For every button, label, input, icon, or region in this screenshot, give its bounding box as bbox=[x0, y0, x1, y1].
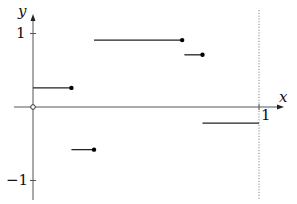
segments bbox=[33, 38, 259, 152]
filled-endpoint-dot-icon bbox=[69, 86, 73, 90]
x-axis-label: x bbox=[279, 90, 287, 105]
origin-open-circle-icon bbox=[31, 105, 36, 110]
y-axis-arrow-icon bbox=[31, 14, 36, 21]
filled-endpoint-dot-icon bbox=[200, 53, 204, 57]
y-tick-label-1: 1 bbox=[16, 26, 26, 41]
y-tick-label-neg1: −1 bbox=[6, 173, 28, 188]
x-tick-label-1: 1 bbox=[261, 108, 271, 123]
filled-endpoint-dot-icon bbox=[180, 38, 184, 42]
step-function-plot bbox=[0, 0, 297, 204]
filled-endpoint-dot-icon bbox=[92, 147, 96, 151]
axes bbox=[14, 10, 284, 200]
y-axis-label: y bbox=[18, 4, 26, 19]
